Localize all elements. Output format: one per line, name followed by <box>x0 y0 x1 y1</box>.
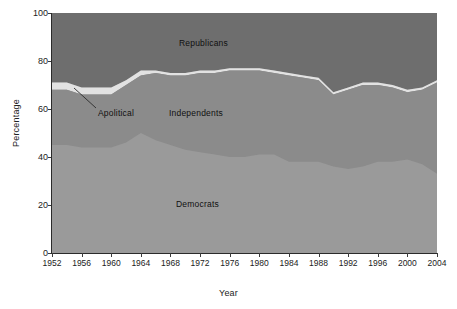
x-tick-mark <box>348 253 349 257</box>
x-tick-mark <box>200 253 201 257</box>
x-tick-mark <box>259 253 260 257</box>
x-tick-label: 2004 <box>428 258 447 268</box>
x-tick-mark <box>319 253 320 257</box>
x-tick-label: 1964 <box>131 258 150 268</box>
x-tick-label: 1996 <box>368 258 387 268</box>
x-tick-label: 1952 <box>43 258 62 268</box>
x-tick-mark <box>230 253 231 257</box>
series-label-apolitical: Apolitical <box>98 108 134 118</box>
series-label-independents: Independents <box>169 108 223 118</box>
x-tick-mark <box>82 253 83 257</box>
x-tick-mark <box>111 253 112 257</box>
x-tick-label: 1988 <box>309 258 328 268</box>
x-tick-label: 1984 <box>279 258 298 268</box>
x-axis-ticks: 1952195619601964196819721976198019841988… <box>0 0 457 309</box>
x-tick-label: 1992 <box>339 258 358 268</box>
x-tick-label: 1976 <box>220 258 239 268</box>
x-tick-label: 1956 <box>72 258 91 268</box>
x-tick-mark <box>170 253 171 257</box>
x-tick-mark <box>52 253 53 257</box>
x-axis-title: Year <box>0 288 457 298</box>
x-tick-mark <box>141 253 142 257</box>
series-label-democrats: Democrats <box>176 199 219 209</box>
x-tick-mark <box>437 253 438 257</box>
series-label-republicans: Republicans <box>179 38 228 48</box>
x-tick-label: 1980 <box>250 258 269 268</box>
x-tick-mark <box>378 253 379 257</box>
stacked-area-chart: Percentage 020406080100 1952195619601964… <box>0 0 457 309</box>
x-tick-label: 1960 <box>102 258 121 268</box>
x-tick-label: 1972 <box>191 258 210 268</box>
x-tick-label: 2000 <box>398 258 417 268</box>
x-tick-label: 1968 <box>161 258 180 268</box>
x-tick-mark <box>407 253 408 257</box>
x-tick-mark <box>289 253 290 257</box>
